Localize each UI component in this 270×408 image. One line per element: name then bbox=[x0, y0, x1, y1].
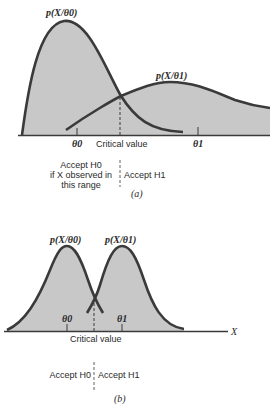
tick-label-theta0-a: θ0 bbox=[72, 138, 82, 149]
caption-a: (a) bbox=[131, 188, 143, 199]
tick-label-theta1-a: θ1 bbox=[193, 138, 203, 149]
curve-label-theta0-b: p(X/θ0) bbox=[50, 234, 81, 245]
accept-h0-text-line2-a: if X observed in bbox=[44, 170, 118, 180]
axis-label-x-b: X bbox=[231, 326, 237, 337]
accept-h0-text-line3-a: this range bbox=[44, 180, 118, 190]
accept-h0-text-b: Accept H0 bbox=[30, 370, 91, 380]
diagram-canvas bbox=[0, 0, 270, 408]
curve-label-theta0-a: p(X/θ0) bbox=[46, 7, 77, 18]
tick-label-theta1-b: θ1 bbox=[117, 313, 127, 324]
accept-h1-text-b: Accept H1 bbox=[98, 370, 140, 380]
curve-label-theta1-b: p(X/θ1) bbox=[105, 234, 136, 245]
tick-label-theta0-b: θ0 bbox=[62, 313, 72, 324]
accept-h0-text-line1-a: Accept H0 bbox=[44, 160, 118, 170]
caption-b: (b) bbox=[114, 393, 126, 404]
accept-h1-text-a: Accept H1 bbox=[124, 170, 166, 180]
tick-label-critical-b: Critical value bbox=[70, 334, 122, 344]
curve-label-theta1-a: p(X/θ1) bbox=[156, 70, 187, 81]
tick-label-critical-a: Critical value bbox=[96, 139, 148, 149]
